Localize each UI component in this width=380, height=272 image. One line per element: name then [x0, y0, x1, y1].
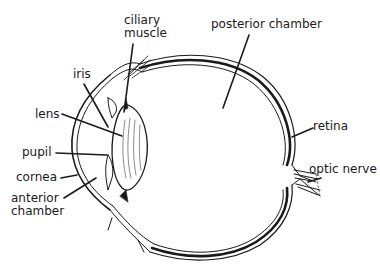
label-ciliary-muscle: ciliary muscle — [124, 14, 167, 40]
label-ciliary-muscle-line2: muscle — [124, 27, 167, 40]
retina-leader — [292, 128, 313, 137]
eye-illustration — [0, 0, 380, 272]
lens-shape — [112, 105, 147, 190]
label-retina: retina — [313, 120, 348, 133]
sclera-outline — [140, 55, 295, 260]
label-pupil: pupil — [22, 146, 52, 159]
anterior-chamber-leader — [64, 178, 96, 198]
eye-diagram: ciliary muscle posterior chamber iris le… — [0, 0, 380, 272]
label-anterior-chamber: anterior chamber — [11, 192, 64, 218]
label-cornea: cornea — [16, 171, 57, 184]
cornea-leader — [61, 175, 77, 178]
ciliary-body-lower — [120, 190, 128, 202]
label-optic-nerve: optic nerve — [309, 163, 377, 176]
label-iris: iris — [73, 68, 91, 81]
label-anterior-chamber-line2: chamber — [11, 205, 64, 218]
label-lens: lens — [35, 108, 60, 121]
label-posterior-chamber: posterior chamber — [211, 18, 322, 31]
pupil-leader — [56, 153, 107, 155]
iris-leader — [84, 84, 108, 127]
